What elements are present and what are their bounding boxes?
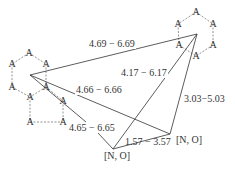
atom-a: A — [174, 19, 181, 29]
feature-n-o-lower: [N, O] — [104, 151, 130, 161]
distance-label-right-ring-no-right: 3.03−5.03 — [183, 94, 226, 104]
atom-a: A — [42, 82, 49, 92]
atom-a: A — [42, 59, 49, 69]
feature-n-o-right: [N, O] — [176, 135, 202, 145]
pharmacophore-diagram: A A A A A A A A A A A A A A A [N, O] [N,… — [0, 0, 235, 171]
distance-label-no-lower-no-right: 1.57 − 3.57 — [124, 137, 172, 147]
atom-a: A — [209, 19, 216, 29]
distance-label-left-ring-no-right: 4.66 − 6.66 — [75, 85, 123, 95]
distance-label-left-ring-no-lower: 4.65 − 6.65 — [68, 123, 116, 133]
atom-a: A — [209, 40, 216, 50]
atom-a: A — [8, 82, 15, 92]
atom-a: A — [59, 96, 66, 106]
distance-label-left-right-ring: 4.69 − 6.69 — [88, 39, 136, 49]
atom-a: A — [25, 48, 32, 58]
left-ring-bonds — [12, 53, 63, 122]
atom-a: A — [192, 7, 199, 17]
atom-a: A — [8, 59, 15, 69]
atom-a: A — [175, 40, 182, 50]
distance-label-right-ring-no-lower: 4.17 − 6.17 — [120, 68, 168, 78]
atom-a: A — [26, 92, 33, 102]
atom-a: A — [26, 117, 33, 127]
atom-a: A — [59, 117, 66, 127]
atom-a: A — [192, 51, 199, 61]
